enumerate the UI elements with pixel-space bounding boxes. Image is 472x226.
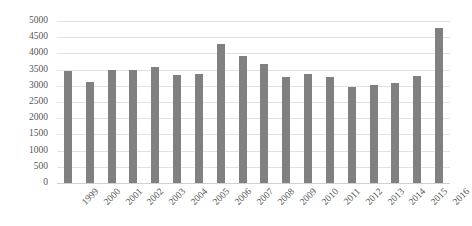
x-tick-label: 2016	[452, 187, 472, 207]
bar[interactable]	[326, 77, 334, 183]
bar[interactable]	[391, 83, 399, 183]
y-tick-label: 1000	[29, 146, 48, 156]
x-axis: 1999200020012002200320042005200620072008…	[57, 185, 450, 225]
bar-slot	[363, 21, 385, 183]
bar[interactable]	[348, 87, 356, 183]
x-tick-label: 2006	[233, 187, 253, 207]
x-tick-label: 1999	[80, 187, 100, 207]
bar[interactable]	[413, 76, 421, 183]
plot-area	[57, 21, 450, 183]
bar-slot	[232, 21, 254, 183]
y-tick-label: 500	[34, 162, 48, 172]
bar[interactable]	[195, 74, 203, 183]
x-tick-label: 2013	[386, 187, 406, 207]
bar-slot	[166, 21, 188, 183]
x-tick-label: 2014	[408, 187, 428, 207]
bar-slot	[275, 21, 297, 183]
y-tick-label: 3500	[29, 65, 48, 75]
x-tick-label: 2001	[124, 187, 144, 207]
y-tick-label: 1500	[29, 130, 48, 140]
bar[interactable]	[86, 82, 94, 183]
bar-slot	[406, 21, 428, 183]
bar[interactable]	[435, 28, 443, 183]
bar[interactable]	[129, 70, 137, 183]
bar-slot	[210, 21, 232, 183]
bar-slot	[428, 21, 450, 183]
y-tick-label: 4000	[29, 49, 48, 59]
bar[interactable]	[260, 64, 268, 183]
x-tick-label: 2015	[430, 187, 450, 207]
x-tick-label: 2007	[255, 187, 275, 207]
x-tick-label: 2004	[190, 187, 210, 207]
y-axis: 0500100015002000250030003500400045005000	[0, 21, 52, 183]
bar-slot	[123, 21, 145, 183]
bar[interactable]	[151, 67, 159, 183]
bar-slot	[254, 21, 276, 183]
bar[interactable]	[217, 44, 225, 183]
x-tick-label: 2012	[364, 187, 384, 207]
x-tick-label: 2011	[342, 187, 362, 207]
bar[interactable]	[370, 85, 378, 183]
bar-slot	[79, 21, 101, 183]
bar-slot	[297, 21, 319, 183]
x-tick-label: 2005	[211, 187, 231, 207]
y-tick-label: 2000	[29, 113, 48, 123]
bar-slot	[385, 21, 407, 183]
y-tick-label: 5000	[29, 16, 48, 26]
x-tick-label: 2003	[168, 187, 188, 207]
bar-slot	[101, 21, 123, 183]
bar[interactable]	[304, 74, 312, 183]
bar[interactable]	[173, 75, 181, 183]
bar-slot	[341, 21, 363, 183]
x-tick-label: 2000	[102, 187, 122, 207]
x-tick-label: 2008	[277, 187, 297, 207]
bar-slot	[188, 21, 210, 183]
x-tick-label: 2009	[299, 187, 319, 207]
bar-slot	[57, 21, 79, 183]
bar[interactable]	[239, 56, 247, 183]
y-tick-label: 2500	[29, 97, 48, 107]
y-tick-label: 3000	[29, 81, 48, 91]
y-tick-label: 4500	[29, 32, 48, 42]
bar-slot	[144, 21, 166, 183]
bar[interactable]	[282, 77, 290, 183]
bar[interactable]	[64, 71, 72, 183]
bar[interactable]	[108, 70, 116, 183]
x-tick-label: 2010	[321, 187, 341, 207]
x-tick-label: 2002	[146, 187, 166, 207]
axis-baseline	[57, 183, 450, 184]
bar-slot	[319, 21, 341, 183]
y-tick-label: 0	[43, 178, 48, 188]
